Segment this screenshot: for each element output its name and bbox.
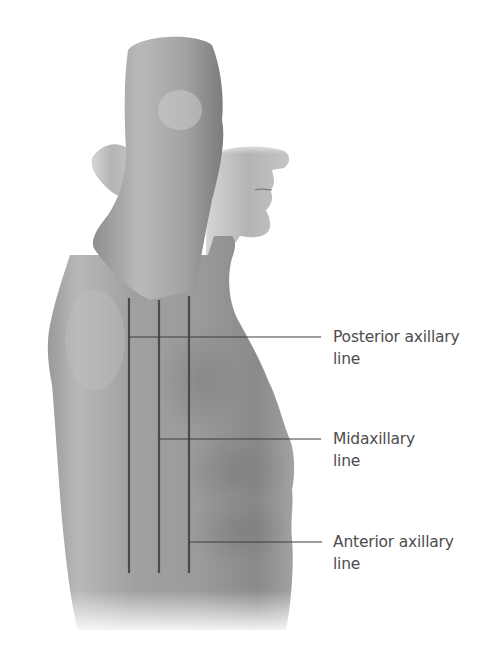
label-posterior-axillary-line: Posterior axillary line (333, 326, 459, 370)
label-anterior-axillary-line: Anterior axillary line (333, 531, 454, 575)
label-midaxillary-line: Midaxillary line (333, 428, 415, 472)
label-text-line1: Posterior axillary (333, 326, 459, 348)
label-text-line2: line (333, 348, 459, 370)
label-text-line2: line (333, 450, 415, 472)
label-text-line1: Anterior axillary (333, 531, 454, 553)
label-text-line1: Midaxillary (333, 428, 415, 450)
label-text-line2: line (333, 553, 454, 575)
